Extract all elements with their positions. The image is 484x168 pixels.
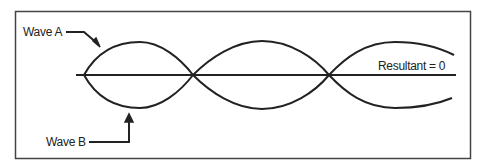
wave-a-pointer-line <box>66 32 98 44</box>
wave-b-arrowhead-icon <box>125 114 133 122</box>
wave-b-curve <box>84 75 452 109</box>
wave-a-arrowhead-icon <box>93 38 100 47</box>
wave-a-label: Wave A <box>23 25 62 39</box>
wave-b-pointer-line <box>89 118 129 142</box>
wave-b-label: Wave B <box>46 135 86 149</box>
resultant-label: Resultant = 0 <box>378 59 445 73</box>
